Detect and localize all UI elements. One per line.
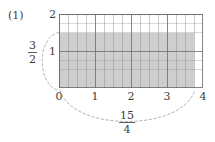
plot-border [59, 14, 203, 88]
x-axis-tick-label-4: 4 [196, 91, 210, 102]
figure-panel: (1) 2 1 0 1 2 3 4 3 2 15 4 [0, 0, 215, 142]
x-axis-tick-label-2: 2 [124, 91, 138, 102]
height-fraction-denominator: 2 [28, 54, 37, 66]
width-fraction-denominator: 4 [119, 124, 135, 136]
width-measure-fraction: 15 4 [119, 110, 135, 135]
y-axis-tick-label-1: 1 [44, 46, 56, 57]
height-fraction-numerator: 3 [28, 40, 37, 52]
height-measure-fraction: 3 2 [28, 40, 37, 65]
x-axis-tick-label-3: 3 [160, 91, 174, 102]
panel-number-label: (1) [8, 10, 24, 21]
y-axis-tick-label-2: 2 [44, 9, 56, 20]
height-measure-arc [42, 33, 59, 91]
x-axis-tick-label-0: 0 [52, 91, 66, 102]
plot-area [59, 14, 203, 88]
width-fraction-numerator: 15 [119, 110, 135, 122]
x-axis-tick-label-1: 1 [88, 91, 102, 102]
